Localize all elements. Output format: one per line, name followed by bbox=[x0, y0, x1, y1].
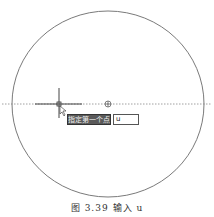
drawing-canvas[interactable] bbox=[0, 0, 214, 198]
dynamic-input-prompt: 指定第一个点: bbox=[67, 114, 111, 125]
center-snap-marker-icon bbox=[105, 101, 111, 107]
figure-caption: 图 3.39 输入 u bbox=[0, 201, 214, 214]
dynamic-input-field[interactable]: u bbox=[113, 114, 139, 125]
